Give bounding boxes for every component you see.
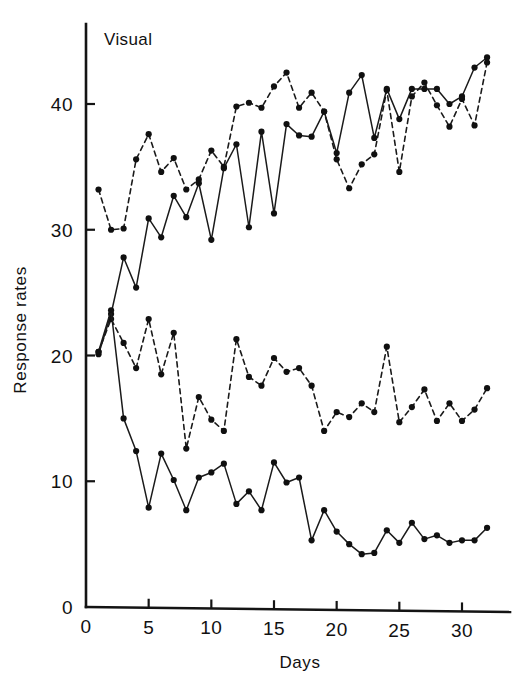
data-point	[183, 445, 189, 451]
data-point	[221, 428, 227, 434]
data-point	[95, 186, 101, 192]
data-point	[271, 459, 277, 465]
series-path-lower-solid	[99, 310, 488, 554]
x-tick-label-10: 10	[200, 617, 222, 638]
data-point	[233, 141, 239, 147]
data-point	[271, 83, 277, 89]
y-tick-label-40: 40	[51, 94, 73, 115]
data-point	[309, 134, 315, 140]
data-point	[171, 330, 177, 336]
data-point	[183, 507, 189, 513]
chart-figure: 010203040 051015202530 Visual Response r…	[0, 0, 519, 689]
data-point	[221, 165, 227, 171]
data-point	[258, 105, 264, 111]
data-point	[371, 550, 377, 556]
y-tick-label-30: 30	[51, 220, 73, 241]
data-point	[95, 349, 101, 355]
data-point	[158, 234, 164, 240]
x-axis-line	[86, 607, 510, 612]
data-point	[158, 371, 164, 377]
x-tick-label-5: 5	[143, 617, 154, 638]
data-point	[296, 474, 302, 480]
data-point	[133, 285, 139, 291]
data-point	[334, 409, 340, 415]
data-point	[183, 186, 189, 192]
data-point	[321, 108, 327, 114]
data-point	[309, 90, 315, 96]
data-point	[283, 121, 289, 127]
data-point	[421, 386, 427, 392]
y-axis-title: Response rates	[11, 266, 30, 393]
data-point	[246, 488, 252, 494]
data-point	[146, 215, 152, 221]
data-point	[108, 307, 114, 313]
data-point	[233, 103, 239, 109]
data-point	[171, 193, 177, 199]
data-point	[208, 417, 214, 423]
data-point	[158, 450, 164, 456]
data-point	[158, 169, 164, 175]
data-point	[471, 64, 477, 70]
data-point	[434, 532, 440, 538]
data-point	[371, 151, 377, 157]
data-point	[421, 536, 427, 542]
data-point	[409, 404, 415, 410]
data-point	[258, 129, 264, 135]
data-point	[108, 227, 114, 233]
data-point	[359, 400, 365, 406]
data-point	[484, 54, 490, 60]
data-point	[121, 225, 127, 231]
data-point	[446, 400, 452, 406]
data-point	[196, 394, 202, 400]
data-point	[171, 155, 177, 161]
data-point	[434, 418, 440, 424]
y-tick-label-10: 10	[51, 471, 73, 492]
data-point	[471, 537, 477, 543]
data-point	[183, 214, 189, 220]
data-point	[309, 383, 315, 389]
data-point	[208, 147, 214, 153]
data-point	[246, 374, 252, 380]
x-tick-label-15: 15	[263, 618, 285, 639]
data-point	[346, 90, 352, 96]
data-point	[258, 507, 264, 513]
data-point	[171, 477, 177, 483]
data-point	[396, 419, 402, 425]
data-point	[384, 527, 390, 533]
data-point	[396, 116, 402, 122]
data-point	[121, 254, 127, 260]
data-point	[271, 210, 277, 216]
data-point	[246, 100, 252, 106]
data-point	[446, 540, 452, 546]
data-point	[334, 528, 340, 534]
data-point	[121, 415, 127, 421]
data-point	[459, 418, 465, 424]
data-point	[196, 474, 202, 480]
series-path-upper-solid	[99, 57, 488, 354]
data-point	[434, 86, 440, 92]
data-point	[296, 105, 302, 111]
y-axis-ticks: 010203040	[51, 94, 95, 618]
data-point	[233, 501, 239, 507]
data-point	[146, 316, 152, 322]
data-point	[334, 150, 340, 156]
data-point	[321, 428, 327, 434]
data-point	[471, 406, 477, 412]
data-point	[459, 537, 465, 543]
data-point	[233, 336, 239, 342]
data-point	[409, 520, 415, 526]
series-lower-dashed	[95, 316, 490, 452]
data-point	[359, 72, 365, 78]
data-point	[246, 224, 252, 230]
series-path-upper-dashed	[99, 63, 488, 230]
x-tick-label-20: 20	[326, 619, 348, 640]
data-point	[121, 340, 127, 346]
data-point	[346, 541, 352, 547]
data-point	[146, 505, 152, 511]
data-point	[396, 169, 402, 175]
data-point	[396, 540, 402, 546]
data-point	[334, 156, 340, 162]
data-point	[434, 102, 440, 108]
series-path-lower-dashed	[99, 319, 488, 449]
y-tick-label-20: 20	[51, 346, 73, 367]
